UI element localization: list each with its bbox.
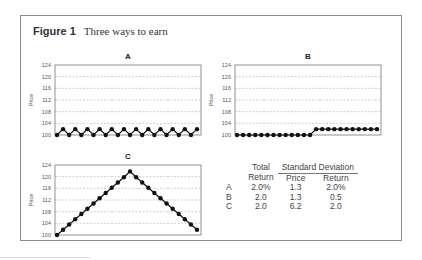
y-tick-label: 112 <box>42 197 51 203</box>
y-tick-label: 124 <box>222 62 231 68</box>
data-point <box>177 212 181 216</box>
data-point <box>61 228 65 232</box>
row-label: C <box>222 202 244 212</box>
divider <box>0 257 90 258</box>
data-point <box>363 127 367 131</box>
y-tick-label: 108 <box>42 109 51 115</box>
stats-table: Total Standard Deviation Return Price Re… <box>222 163 358 212</box>
y-tick-label: 100 <box>222 132 231 138</box>
table-header-group-row: Total Standard Deviation <box>222 163 358 173</box>
y-tick-label: 124 <box>42 162 51 168</box>
table-row: C 2.0 6.2 2.0 <box>222 202 358 212</box>
cell-total-return: 2.0 <box>244 202 278 212</box>
y-tick-label: 124 <box>42 62 51 68</box>
data-point <box>247 133 251 137</box>
data-point <box>177 133 181 137</box>
chart-title: C <box>125 152 131 161</box>
y-axis-label: Price <box>28 94 34 107</box>
data-point <box>85 127 89 131</box>
figure-title: Three ways to earn <box>84 25 168 37</box>
figure-label: Figure 1 <box>33 25 76 37</box>
data-point <box>122 175 126 179</box>
data-point <box>158 127 162 131</box>
data-point <box>235 133 239 137</box>
data-point <box>271 133 275 137</box>
chart-b: B100104108112116120124Price <box>200 40 382 140</box>
y-tick-label: 104 <box>222 120 231 126</box>
y-tick-label: 116 <box>222 85 231 91</box>
data-point <box>183 217 187 221</box>
data-point <box>350 127 354 131</box>
data-point <box>91 133 95 137</box>
data-point <box>67 222 71 226</box>
data-point <box>91 201 95 205</box>
data-point <box>253 133 257 137</box>
data-point <box>122 127 126 131</box>
data-point <box>195 228 199 232</box>
y-tick-label: 112 <box>42 97 51 103</box>
y-tick-label: 108 <box>222 109 231 115</box>
data-point <box>259 133 263 137</box>
data-point <box>290 133 294 137</box>
data-point <box>146 127 150 131</box>
data-point <box>67 133 71 137</box>
data-point <box>369 127 373 131</box>
data-point <box>79 212 83 216</box>
y-axis-label: Price <box>28 194 34 207</box>
y-tick-label: 120 <box>222 74 231 80</box>
data-point <box>265 133 269 137</box>
chart-c: C100104108112116120124Price <box>20 140 202 240</box>
y-tick-label: 104 <box>42 220 51 226</box>
data-point <box>170 207 174 211</box>
data-line <box>57 129 197 135</box>
chart-title: A <box>125 52 131 61</box>
table-header-blank <box>222 163 244 173</box>
data-point <box>296 133 300 137</box>
data-point <box>164 133 168 137</box>
data-point <box>73 217 77 221</box>
data-point <box>277 133 281 137</box>
chart-title: B <box>305 52 311 61</box>
data-point <box>85 207 89 211</box>
data-point <box>73 127 77 131</box>
y-tick-label: 112 <box>222 97 231 103</box>
data-line <box>237 129 377 135</box>
data-point <box>152 133 156 137</box>
data-point <box>134 175 138 179</box>
y-tick-label: 104 <box>42 120 51 126</box>
table-header-std-dev: Standard Deviation <box>278 163 358 173</box>
data-point <box>128 169 132 173</box>
data-point <box>375 127 379 131</box>
y-tick-label: 108 <box>42 209 51 215</box>
data-point <box>308 133 312 137</box>
data-point <box>183 127 187 131</box>
data-point <box>338 127 342 131</box>
data-point <box>152 191 156 195</box>
y-tick-label: 120 <box>42 174 51 180</box>
data-point <box>170 127 174 131</box>
data-point <box>116 133 120 137</box>
data-point <box>97 196 101 200</box>
data-point <box>55 233 59 237</box>
data-point <box>146 186 150 190</box>
data-point <box>103 191 107 195</box>
data-point <box>110 127 114 131</box>
data-point <box>241 133 245 137</box>
data-point <box>283 133 287 137</box>
figure-caption: Figure 1Three ways to earn <box>33 25 168 37</box>
data-point <box>97 127 101 131</box>
y-tick-label: 100 <box>42 132 51 138</box>
data-point <box>116 180 120 184</box>
data-point <box>158 196 162 200</box>
data-point <box>189 133 193 137</box>
chart-a: A100104108112116120124Price <box>20 40 202 140</box>
data-point <box>103 133 107 137</box>
data-point <box>61 127 65 131</box>
data-point <box>332 127 336 131</box>
data-point <box>314 127 318 131</box>
data-point <box>344 127 348 131</box>
data-point <box>189 222 193 226</box>
data-point <box>357 127 361 131</box>
cell-sd-return: 2.0 <box>314 202 358 212</box>
data-point <box>140 133 144 137</box>
